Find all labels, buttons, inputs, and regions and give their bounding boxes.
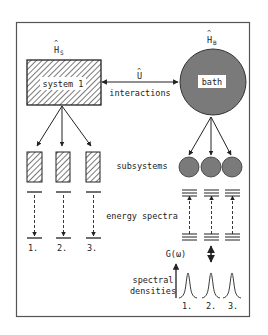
bath-circle: bath <box>180 49 246 115</box>
g-omega-label: G(ω) <box>166 249 186 259</box>
system-box: system 1 <box>27 60 101 105</box>
interactions-label: interactions <box>109 88 170 98</box>
svg-text:B: B <box>213 39 217 46</box>
bath-label: bath <box>202 77 222 87</box>
system-label: system 1 <box>43 79 84 89</box>
subsystems-label: subsystems <box>116 161 167 171</box>
bath-subsystem-circles <box>179 157 242 177</box>
svg-text:spectral: spectral <box>133 275 174 285</box>
svg-text:S: S <box>60 49 64 56</box>
energy-spectra-label: energy spectra <box>106 211 178 221</box>
svg-text:U: U <box>137 71 142 81</box>
svg-text:^: ^ <box>54 39 58 47</box>
svg-text:1.: 1. <box>28 243 38 253</box>
svg-text:2.: 2. <box>206 301 216 311</box>
spectral-densities-label: spectral densities <box>130 275 176 296</box>
svg-text:densities: densities <box>130 286 176 296</box>
svg-text:3.: 3. <box>228 301 238 311</box>
bath-indices: 1. 2. 3. <box>182 301 238 311</box>
system-bath-diagram: H S ^ system 1 ^ U interactions H B ^ ba… <box>0 0 268 335</box>
svg-text:3.: 3. <box>87 243 97 253</box>
system-subsystem-boxes <box>27 152 100 182</box>
svg-text:1.: 1. <box>182 301 192 311</box>
svg-text:2.: 2. <box>57 243 67 253</box>
svg-text:^: ^ <box>207 29 211 37</box>
